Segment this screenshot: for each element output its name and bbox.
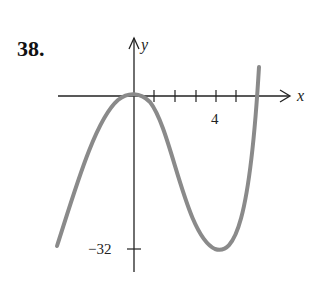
y-axis-label: y (139, 36, 149, 54)
x-tick-label-4: 4 (211, 111, 219, 127)
x-axis-label: x (296, 87, 304, 104)
y-tick-label-neg32: −32 (88, 241, 111, 257)
function-curve (57, 67, 259, 250)
graph: x y 4 −32 (0, 0, 325, 283)
